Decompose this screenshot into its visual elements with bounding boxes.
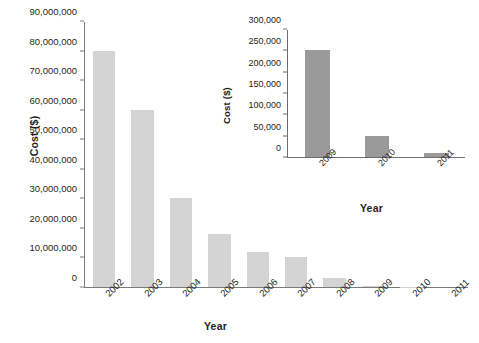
main-chart-y-tick-label: 90,000,000 bbox=[29, 6, 84, 17]
main-chart-y-tick-mark bbox=[80, 257, 84, 258]
main-chart-y-tick-mark bbox=[80, 21, 84, 22]
main-chart-y-tick-label: 30,000,000 bbox=[29, 183, 84, 194]
inset-chart-x-axis-title: Year bbox=[360, 202, 383, 214]
inset-chart-y-tick-label: 250,000 bbox=[248, 36, 287, 46]
main-chart-y-tick-mark bbox=[80, 109, 84, 110]
main-chart-y-tick-label: 70,000,000 bbox=[29, 65, 84, 76]
main-chart-y-tick-label: 60,000,000 bbox=[29, 94, 84, 105]
figure-container: Cost ($) Year 010,000,00020,000,00030,00… bbox=[0, 0, 479, 343]
inset-chart-bar bbox=[305, 50, 330, 157]
main-chart-y-tick-label: 10,000,000 bbox=[29, 242, 84, 253]
main-chart-y-tick-label: 40,000,000 bbox=[29, 153, 84, 164]
main-chart-y-tick-mark bbox=[80, 80, 84, 81]
main-chart-y-tick-label: 20,000,000 bbox=[29, 212, 84, 223]
main-chart-y-tick-label: 50,000,000 bbox=[29, 124, 84, 135]
main-chart-bar bbox=[208, 234, 230, 287]
main-chart-bar bbox=[131, 110, 153, 287]
inset-chart-y-tick-mark bbox=[283, 71, 287, 72]
main-chart-y-tick-label: 0 bbox=[72, 272, 84, 283]
inset-chart-y-tick-mark bbox=[283, 135, 287, 136]
main-chart-y-tick-mark bbox=[80, 168, 84, 169]
inset-chart-y-axis-title: Cost ($) bbox=[221, 76, 232, 136]
main-chart-y-tick-label: 80,000,000 bbox=[29, 35, 84, 46]
inset-bar-chart: Cost ($) Year 050,000100,000150,000200,0… bbox=[212, 22, 474, 222]
inset-chart-y-tick-mark bbox=[283, 29, 287, 30]
inset-chart-y-tick-label: 200,000 bbox=[248, 58, 287, 68]
inset-chart-y-tick-label: 100,000 bbox=[248, 100, 287, 110]
main-chart-y-tick-mark bbox=[80, 139, 84, 140]
inset-chart-y-tick-label: 50,000 bbox=[253, 122, 287, 132]
main-chart-y-tick-mark bbox=[80, 50, 84, 51]
main-chart-y-tick-mark bbox=[80, 198, 84, 199]
inset-chart-y-tick-label: 0 bbox=[276, 143, 287, 153]
inset-chart-plot-area: 050,000100,000150,000200,000250,000300,0… bbox=[287, 30, 465, 158]
main-chart-y-tick-mark bbox=[80, 287, 84, 288]
inset-chart-y-tick-mark bbox=[283, 114, 287, 115]
main-chart-bar bbox=[93, 51, 115, 287]
main-chart-y-tick-mark bbox=[80, 227, 84, 228]
inset-chart-y-tick-mark bbox=[283, 157, 287, 158]
main-chart-x-axis-title: Year bbox=[204, 320, 227, 332]
inset-chart-y-tick-mark bbox=[283, 93, 287, 94]
inset-chart-bars-group bbox=[288, 30, 465, 157]
main-chart-bar bbox=[170, 198, 192, 287]
inset-chart-y-tick-label: 300,000 bbox=[248, 15, 287, 25]
inset-chart-y-tick-label: 150,000 bbox=[248, 79, 287, 89]
inset-chart-y-tick-mark bbox=[283, 50, 287, 51]
